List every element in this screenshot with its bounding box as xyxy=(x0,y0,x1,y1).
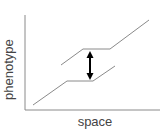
x-axis-label: space xyxy=(60,114,130,130)
diagram: phenotype space xyxy=(0,0,163,135)
y-axis-label: phenotype xyxy=(1,40,17,100)
lower-line xyxy=(33,66,115,105)
double-arrow-icon xyxy=(87,51,94,80)
upper-line xyxy=(61,20,149,65)
